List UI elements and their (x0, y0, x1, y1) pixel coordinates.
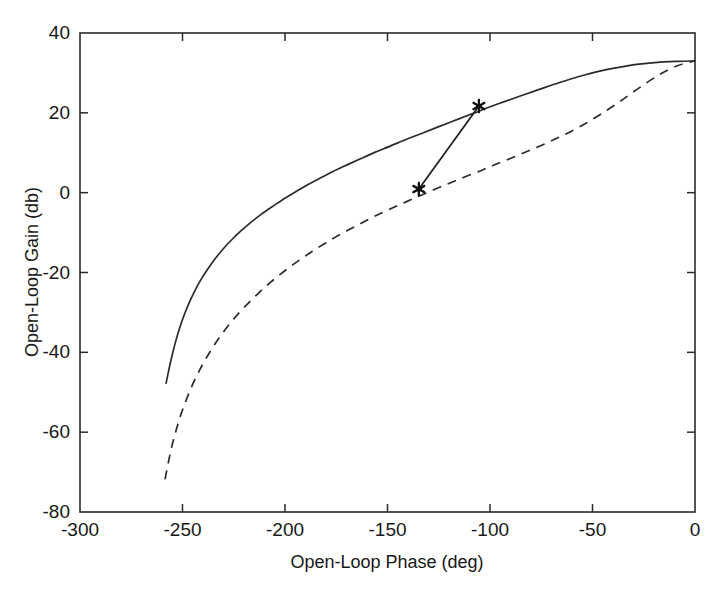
chart-canvas: -300-250-200-150-100-500 -80-60-40-20020… (0, 0, 727, 589)
x-axis-ticks (183, 33, 593, 512)
x-tick-label: -150 (368, 519, 406, 540)
y-axis-tick-labels: -80-60-40-2002040 (43, 22, 70, 522)
margin-connector-line (419, 106, 479, 189)
y-tick-label: 0 (59, 182, 70, 203)
nichols-chart-figure: -300-250-200-150-100-500 -80-60-40-20020… (0, 0, 727, 589)
y-tick-label: 20 (49, 102, 70, 123)
x-tick-label: -300 (61, 519, 99, 540)
y-tick-label: 40 (49, 22, 70, 43)
y-tick-label: -80 (43, 501, 70, 522)
x-tick-label: 0 (690, 519, 701, 540)
y-tick-label: -60 (43, 421, 70, 442)
star-center (416, 186, 421, 191)
x-tick-label: -250 (163, 519, 201, 540)
x-axis-tick-labels: -300-250-200-150-100-500 (61, 519, 700, 540)
y-axis-label: Open-Loop Gain (db) (22, 187, 42, 357)
solid-nichols-curve (166, 61, 695, 383)
plot-frame (80, 33, 695, 512)
x-tick-label: -100 (471, 519, 509, 540)
star-center (476, 103, 481, 108)
data-series-group (165, 61, 695, 479)
y-axis-ticks (80, 113, 695, 432)
dashed-nichols-curve (165, 61, 695, 479)
x-tick-label: -50 (579, 519, 606, 540)
y-tick-label: -40 (43, 341, 70, 362)
x-axis-label: Open-Loop Phase (deg) (290, 552, 483, 572)
x-tick-label: -200 (266, 519, 304, 540)
y-tick-label: -20 (43, 262, 70, 283)
